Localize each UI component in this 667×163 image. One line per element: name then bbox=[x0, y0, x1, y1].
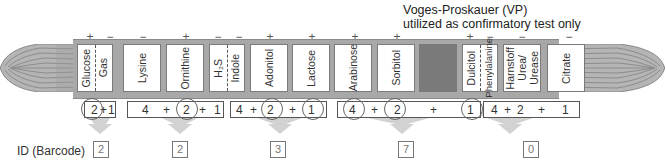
sum-box-group5: 4 + 2 + 1 bbox=[483, 101, 580, 118]
vp-note-line1: Voges-Proskauer (VP) bbox=[403, 3, 581, 17]
sign-citrate: − bbox=[563, 30, 575, 44]
vp-note: Voges-Proskauer (VP) utilized as confirm… bbox=[403, 3, 581, 31]
circle-ornithine-2-icon bbox=[176, 98, 198, 120]
well-dulcitol-phenylalanine: Dulcitol Phenylalanine bbox=[462, 44, 498, 92]
label-adonitol: Adonitol bbox=[264, 49, 275, 87]
compartment-h2s: H₂S bbox=[210, 45, 227, 91]
left-cap-icon bbox=[0, 44, 76, 92]
compartment-gas: Gas bbox=[95, 45, 113, 91]
well-ornithine: Ornithine bbox=[166, 44, 204, 92]
well-sorbitol: Sorbitol bbox=[377, 44, 415, 92]
circle-adonitol-2-icon bbox=[261, 98, 283, 120]
well-arabinose: Arabinose bbox=[334, 44, 372, 92]
well-lysine: Lysine bbox=[123, 44, 161, 92]
compartment-phenylalanine: Phenylalanine bbox=[480, 45, 498, 91]
id-digit-3: 3 bbox=[270, 141, 286, 158]
id-digit-2: 2 bbox=[172, 141, 188, 158]
label-ornithine: Ornithine bbox=[180, 47, 191, 90]
circle-dulcitol-1-icon bbox=[461, 98, 483, 120]
id-digit-1: 2 bbox=[93, 141, 109, 158]
well-vp bbox=[419, 44, 457, 92]
id-digit-5: 0 bbox=[523, 141, 539, 158]
compartment-glucose: Glucose bbox=[78, 45, 95, 91]
label-lactose: Lactose bbox=[306, 50, 317, 87]
id-barcode-label: ID (Barcode) bbox=[17, 144, 85, 158]
circle-arabinose-4-icon bbox=[343, 98, 365, 120]
well-lactose: Lactose bbox=[292, 44, 330, 92]
circle-lactose-1-icon bbox=[302, 98, 324, 120]
well-citrate: Citrate bbox=[547, 44, 585, 92]
well-h2s-indole: H₂S Indole bbox=[209, 44, 245, 92]
circle-sorbitol-2-icon bbox=[384, 98, 406, 120]
compartment-indole: Indole bbox=[227, 45, 245, 91]
label-arabinose: Arabinose bbox=[348, 44, 359, 91]
vp-note-line2: utilized as confirmatory test only bbox=[403, 17, 581, 31]
label-lysine: Lysine bbox=[137, 53, 148, 83]
label-citrate: Citrate bbox=[561, 53, 572, 84]
enterotube-body: Glucose Gas Lysine Ornithine H₂S Indole … bbox=[73, 39, 559, 99]
well-urease: Harnstoff Urea/ Urease bbox=[503, 44, 541, 92]
well-glucose-gas: Glucose Gas bbox=[77, 44, 113, 92]
id-digit-4: 7 bbox=[398, 141, 414, 158]
well-adonitol: Adonitol bbox=[250, 44, 288, 92]
circle-glucose-2-icon bbox=[81, 98, 103, 120]
label-sorbitol: Sorbitol bbox=[391, 50, 402, 86]
compartment-dulcitol: Dulcitol bbox=[463, 45, 480, 91]
